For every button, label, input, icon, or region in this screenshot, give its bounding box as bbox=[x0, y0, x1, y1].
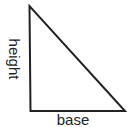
base-label: base bbox=[57, 111, 90, 127]
height-label: height bbox=[6, 39, 23, 81]
triangle-diagram: height base bbox=[0, 0, 128, 127]
right-triangle bbox=[30, 6, 126, 111]
